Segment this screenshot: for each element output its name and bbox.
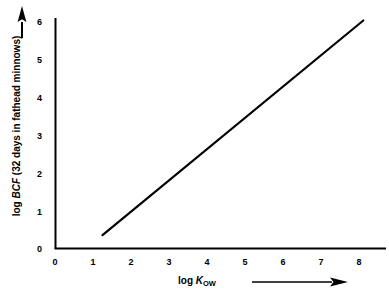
x-tick-label-5: 5	[237, 257, 253, 267]
y-tick-label-4: 4	[28, 93, 42, 103]
chart-figure: log BCF (32 days in fathead minnows) 6 5…	[0, 0, 389, 300]
x-tick-label-8: 8	[351, 257, 367, 267]
y-tick-label-1: 1	[28, 207, 42, 217]
y-tick-label-2: 2	[28, 169, 42, 179]
data-series-line	[103, 21, 364, 236]
x-axis-title-subscript: OW	[203, 279, 216, 288]
x-axis-title-prefix: log	[178, 275, 196, 286]
x-axis-title: log KOW	[178, 275, 216, 290]
arrow-right-icon	[252, 276, 348, 288]
x-tick-label-7: 7	[313, 257, 329, 267]
x-tick-label-3: 3	[161, 257, 177, 267]
x-tick-label-0: 0	[47, 257, 63, 267]
x-tick-label-1: 1	[85, 257, 101, 267]
y-tick-label-6: 6	[28, 17, 42, 27]
x-tick-label-2: 2	[123, 257, 139, 267]
x-tick-label-4: 4	[199, 257, 215, 267]
plot-area	[0, 0, 389, 300]
x-tick-label-6: 6	[275, 257, 291, 267]
y-tick-label-0: 0	[28, 244, 42, 254]
y-tick-label-5: 5	[28, 55, 42, 65]
x-axis-title-italic: K	[196, 275, 203, 286]
y-tick-label-3: 3	[28, 131, 42, 141]
